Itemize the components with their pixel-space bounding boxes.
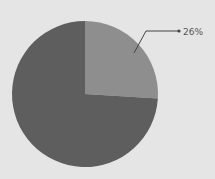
leader-dot <box>177 29 180 32</box>
slice-label-26: 26% <box>183 27 203 37</box>
pie-slice-0 <box>85 21 158 99</box>
pie-chart: 26% <box>0 0 215 179</box>
pie-slices <box>12 21 158 167</box>
